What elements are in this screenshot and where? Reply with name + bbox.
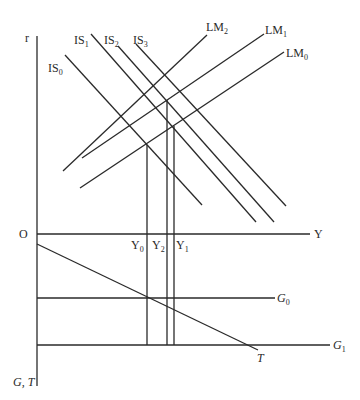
r-axis-label: r: [25, 31, 29, 45]
g1-label: G1: [333, 338, 346, 354]
is0-curve: [65, 55, 202, 205]
is3-label: IS3: [133, 33, 148, 49]
y2-label: Y2: [152, 238, 165, 254]
lm0-label: LM0: [286, 46, 308, 62]
is3-curve: [136, 44, 286, 206]
is0-label: IS0: [48, 61, 63, 77]
lm0-curve: [80, 52, 284, 188]
gt-axis-label: G, T: [13, 375, 36, 389]
y1-label: Y1: [176, 238, 189, 254]
y0-label: Y0: [131, 238, 144, 254]
is2-label: IS2: [104, 33, 119, 49]
is1-label: IS1: [74, 33, 89, 49]
y-axis-label: Y: [314, 227, 323, 241]
g0-label: G0: [277, 291, 290, 307]
origin-label: O: [19, 227, 28, 241]
tax-label: T: [257, 351, 265, 365]
islm-diagram: r O Y G, T IS0 IS1 IS2 IS3 LM2 LM1 LM0 Y…: [0, 0, 360, 400]
lm1-label: LM1: [265, 23, 287, 39]
lm1-curve: [82, 34, 264, 158]
lm2-label: LM2: [206, 20, 228, 36]
is2-curve: [118, 46, 274, 222]
